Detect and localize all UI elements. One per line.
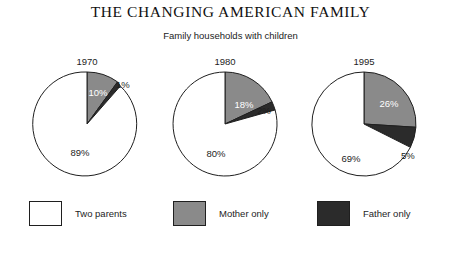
pie-chart-1995: 1995 26% 69% 5% [289, 56, 439, 186]
pie-canvas-1980: 18% 80% 2% [150, 70, 300, 186]
slice-value-two-parents-1970: 89% [70, 147, 90, 158]
pie-canvas-1970: 10% 89% 1% [12, 70, 162, 186]
pie-year-label-1970: 1970 [12, 56, 162, 67]
pie-canvas-1995: 26% 69% 5% [289, 70, 439, 186]
pie-year-label-1980: 1980 [150, 56, 300, 67]
legend: Two parents Mother only Father only [0, 198, 461, 238]
legend-item-two-parents: Two parents [29, 198, 127, 228]
legend-label-father-only: Father only [363, 208, 411, 219]
legend-swatch-father-only-icon [317, 201, 350, 226]
slice-value-two-parents-1980: 80% [206, 148, 226, 159]
pie-svg-1995: 26% 69% [304, 70, 424, 186]
slice-value-mother-only-1980: 18% [234, 99, 254, 110]
slice-value-father-only-1980: 2% [257, 105, 271, 116]
slice-value-father-only-1970: 1% [116, 79, 130, 90]
legend-item-father-only: Father only [317, 198, 411, 228]
slice-value-father-only-1995: 5% [401, 150, 415, 161]
slice-value-mother-only-1970: 10% [88, 87, 108, 98]
legend-swatch-two-parents-icon [29, 201, 62, 226]
legend-swatch-mother-only-icon [173, 201, 206, 226]
pie-chart-1970: 1970 10% 89% 1% [12, 56, 162, 186]
slice-value-mother-only-1995: 26% [379, 98, 399, 109]
legend-item-mother-only: Mother only [173, 198, 269, 228]
pie-chart-1980: 1980 18% 80% 2% [150, 56, 300, 186]
legend-label-two-parents: Two parents [75, 208, 127, 219]
chart-subtitle: Family households with children [0, 30, 461, 41]
pie-svg-1980: 18% 80% [165, 70, 285, 186]
pie-year-label-1995: 1995 [289, 56, 439, 67]
page-title: THE CHANGING AMERICAN FAMILY [0, 3, 461, 21]
legend-label-mother-only: Mother only [219, 208, 269, 219]
slice-value-two-parents-1995: 69% [341, 153, 361, 164]
